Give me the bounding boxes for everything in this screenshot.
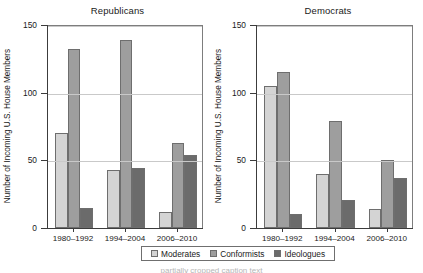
bar (342, 200, 355, 228)
bar-group (100, 26, 152, 228)
x-tick-label: 1980–1992 (262, 234, 303, 243)
cropped-caption-text: partially cropped caption text (0, 266, 423, 273)
gridline-100 (48, 94, 202, 95)
y-tick-100 (41, 93, 47, 94)
legend-swatch-icon (274, 250, 281, 257)
gridline-150 (48, 26, 202, 27)
gridline-50 (257, 161, 412, 162)
y-tick-label-0: 0 (15, 223, 37, 233)
bar-group-container-democrats (257, 26, 412, 228)
bar (394, 178, 407, 228)
bar (120, 40, 133, 228)
bar-group (257, 26, 309, 228)
bar (80, 208, 93, 228)
x-tick-label: 1980–1992 (53, 234, 94, 243)
gridline-50 (48, 161, 202, 162)
y-axis-label-text: Number of Incoming U.S. House Members (3, 49, 12, 203)
bar (369, 209, 382, 228)
y-tick-150 (41, 25, 47, 26)
bar (68, 49, 81, 228)
legend-item: Moderates (151, 249, 200, 259)
x-tick-label: 1994–2004 (105, 234, 146, 243)
y-tick-label-50: 50 (224, 155, 246, 165)
y-axis-label-text: Number of Incoming U.S. House Members (214, 49, 223, 203)
bar (172, 143, 185, 228)
y-axis-label-democrats: Number of Incoming U.S. House Members (210, 0, 226, 252)
bar (184, 155, 197, 228)
y-tick-150 (250, 25, 256, 26)
legend-item: Ideologues (274, 249, 325, 259)
panel-democrats: Democrats Number of Incoming U.S. House … (211, 0, 423, 252)
y-tick-label-50: 50 (15, 155, 37, 165)
chart-legend: ModeratesConformistsIdeologues (141, 246, 335, 261)
cropped-caption: partially cropped caption text (0, 266, 423, 273)
plot-area-republicans (47, 25, 203, 228)
y-tick-50 (250, 160, 256, 161)
bar (55, 133, 68, 228)
bar (277, 72, 290, 228)
bar (381, 160, 394, 228)
x-tick-label: 2006–2010 (157, 234, 198, 243)
legend-swatch-icon (151, 250, 158, 257)
bar-group-container-republicans (48, 26, 202, 228)
panel-title-democrats: Democrats (211, 5, 423, 16)
panel-title-republicans: Republicans (0, 5, 211, 16)
legend-label: Conformists (220, 249, 264, 259)
x-tick-label: 1994–2004 (314, 234, 355, 243)
bar (132, 168, 145, 228)
y-tick-label-100: 100 (15, 88, 37, 98)
legend-label: Ideologues (284, 249, 325, 259)
bar (329, 121, 342, 228)
plot-area-democrats (256, 25, 413, 228)
bar-group (152, 26, 204, 228)
x-axis-line (47, 228, 203, 229)
y-tick-50 (41, 160, 47, 161)
x-axis-line (256, 228, 413, 229)
y-tick-label-150: 150 (224, 20, 246, 30)
x-tick-label: 2006–2010 (367, 234, 408, 243)
bar (290, 214, 303, 228)
y-tick-label-100: 100 (224, 88, 246, 98)
bar (264, 86, 277, 228)
bar-group (309, 26, 361, 228)
figure-container: Republicans Number of Incoming U.S. Hous… (0, 0, 423, 273)
legend-swatch-icon (210, 250, 217, 257)
gridline-100 (257, 94, 412, 95)
y-axis-line-democrats (256, 25, 257, 229)
y-tick-label-150: 150 (15, 20, 37, 30)
bar-group (362, 26, 414, 228)
y-tick-label-0: 0 (224, 223, 246, 233)
y-axis-line-republicans (47, 25, 48, 229)
panel-republicans: Republicans Number of Incoming U.S. Hous… (0, 0, 211, 252)
bar-group (48, 26, 100, 228)
bar (107, 170, 120, 228)
bar (159, 212, 172, 228)
y-axis-label-republicans: Number of Incoming U.S. House Members (0, 0, 15, 252)
gridline-150 (257, 26, 412, 27)
y-tick-100 (250, 93, 256, 94)
bar (316, 174, 329, 228)
legend-item: Conformists (210, 249, 264, 259)
legend-label: Moderates (161, 249, 200, 259)
